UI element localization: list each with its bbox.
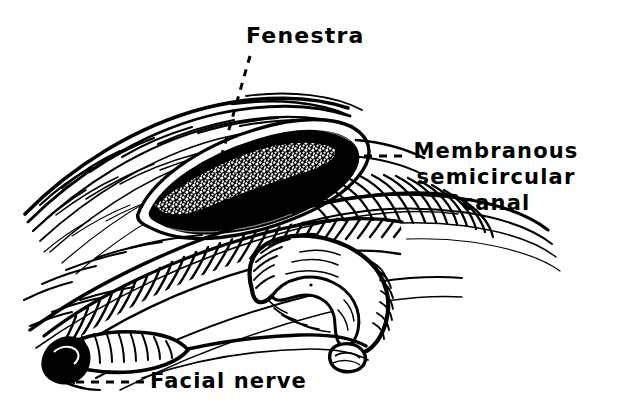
label-membranous-line-3: canal [412,190,580,216]
label-membranous-line-1: Membranous [412,138,580,164]
anatomy-figure: Fenestra Membranous semicircular canal F… [0,0,624,420]
label-membranous-semicircular-canal: Membranous semicircular canal [412,138,580,216]
label-fenestra: Fenestra [246,22,365,49]
label-facial-nerve: Facial nerve [150,368,307,394]
label-membranous-line-2: semicircular [412,164,580,190]
